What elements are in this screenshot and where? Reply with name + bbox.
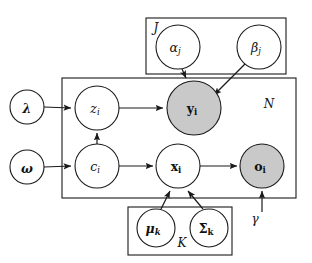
node-x-i[interactable]: xi: [156, 144, 200, 188]
edge-sigma-to-x: [188, 191, 203, 209]
edge-mu-to-x: [161, 191, 170, 209]
node-mu-k-sub: k: [155, 227, 161, 237]
node-sigma-k-base: Σ: [199, 221, 208, 236]
node-z-i[interactable]: zi: [75, 86, 119, 130]
node-beta-j-base: β: [250, 40, 258, 55]
node-lambda[interactable]: λ: [10, 90, 44, 124]
node-beta-j[interactable]: βj: [237, 25, 281, 69]
node-mu-k[interactable]: μk: [137, 209, 175, 247]
edge-beta-to-y: [214, 64, 245, 95]
figure-canvas: J N K: [0, 0, 312, 263]
plate-j-label: J: [151, 21, 160, 35]
plate-n-label: N: [263, 97, 275, 111]
edges-group: [44, 64, 262, 212]
plate-notation-diagram: J N K: [0, 0, 312, 263]
node-omega[interactable]: ω: [10, 150, 44, 184]
node-z-i-sub: i: [97, 107, 100, 117]
node-lambda-label: λ: [22, 101, 32, 116]
node-o-i-base: o: [254, 159, 262, 174]
node-c-i-sub: i: [97, 165, 100, 175]
node-c-i[interactable]: ci: [75, 144, 119, 188]
node-o-i[interactable]: oi: [240, 144, 284, 188]
plate-k-label: K: [177, 236, 188, 250]
gamma-label: γ: [251, 212, 259, 226]
node-omega-label: ω: [21, 161, 33, 176]
node-mu-k-base: μ: [145, 221, 154, 236]
node-sigma-k[interactable]: Σk: [190, 209, 228, 247]
node-c-i-base: c: [90, 159, 97, 174]
edge-lambda-to-z: [44, 107, 71, 108]
node-alpha-j[interactable]: αj: [156, 25, 200, 69]
node-y-i[interactable]: yi: [167, 81, 221, 135]
edge-omega-to-c: [44, 166, 71, 167]
